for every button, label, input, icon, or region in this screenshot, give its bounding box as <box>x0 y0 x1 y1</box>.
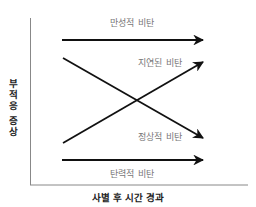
resilient-grief-label: 탄력적 비탄 <box>110 167 154 180</box>
normal-grief-label: 정상적 비탄 <box>138 130 182 143</box>
grief-trajectory-diagram: 만성적 비탄 지연된 비탄 정상적 비탄 탄력적 비탄 부적응 증상 사별 후 … <box>0 0 256 207</box>
y-axis-label: 부적응 증상 <box>6 78 20 137</box>
delayed-grief-label: 지연된 비탄 <box>138 56 182 69</box>
normal-grief-arrow <box>63 58 203 138</box>
x-axis-label: 사별 후 시간 경과 <box>0 190 256 204</box>
chronic-grief-label: 만성적 비탄 <box>110 16 154 29</box>
